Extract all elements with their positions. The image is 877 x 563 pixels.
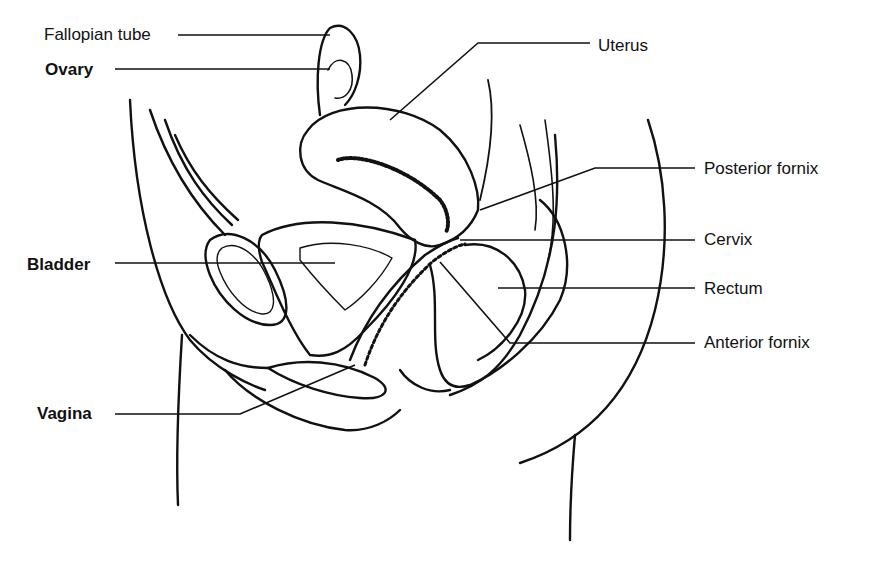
leader-posterior-fornix [480,168,695,210]
label-cervix: Cervix [704,231,752,248]
label-bladder: Bladder [27,256,90,273]
label-rectum: Rectum [704,280,763,297]
label-vagina: Vagina [37,405,92,422]
label-ovary: Ovary [45,61,93,78]
leader-anterior-fornix [440,262,695,343]
label-fallopian-tube: Fallopian tube [44,26,151,43]
leader-uterus [390,43,590,120]
label-anterior-fornix: Anterior fornix [704,334,810,351]
label-posterior-fornix: Posterior fornix [704,160,818,177]
label-uterus: Uterus [598,37,648,54]
leader-vagina [115,365,355,414]
